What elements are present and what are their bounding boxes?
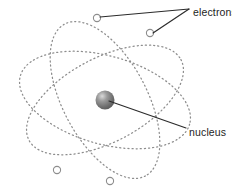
- atom-diagram-canvas: electrons nucleus: [0, 0, 232, 193]
- electrons-leader-line-right: [153, 9, 189, 33]
- electron-bottom-left-icon: [53, 166, 60, 173]
- electron-top-left-icon: [93, 14, 100, 21]
- electron-bottom-right-icon: [106, 177, 113, 184]
- nucleus-leader-line: [109, 101, 186, 128]
- nucleus-group: [96, 91, 115, 110]
- label-group: electrons nucleus: [189, 6, 232, 138]
- nucleus-label: nucleus: [189, 126, 226, 138]
- nucleus-sphere-icon: [96, 91, 115, 110]
- electrons-label: electrons: [193, 6, 232, 18]
- atom-diagram: electrons nucleus: [0, 0, 232, 193]
- electrons-leader-line-left: [100, 9, 189, 17]
